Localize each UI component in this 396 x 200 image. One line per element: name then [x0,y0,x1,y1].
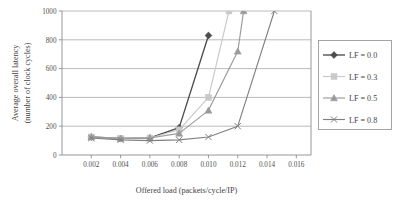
data-point-triangle [234,48,241,54]
x-axis-title: Offered load (packets/cycle/IP) [136,186,238,195]
gridlines [62,11,311,126]
data-series-layer [88,8,278,144]
x-tick-label: 0.006 [142,161,159,169]
series-line [91,11,229,138]
series-1 [88,8,231,141]
y-tick-label: 600 [46,65,57,73]
x-tick-label: 0.016 [288,161,305,169]
legend-label: LF = 0.3 [349,73,377,82]
x-tick-label: 0.010 [200,161,217,169]
x-axis-ticks [91,155,296,158]
legend-label: LF = 0.5 [349,94,377,103]
series-3 [88,8,277,144]
y-tick-label: 800 [46,37,57,45]
y-axis-title-line1: Average overall latency [11,44,20,122]
series-2 [88,8,247,142]
x-tick-label: 0.002 [83,161,100,169]
y-axis-ticks [59,11,62,155]
series-line [91,11,243,138]
x-tick-label: 0.014 [259,161,276,169]
data-point-square [331,74,337,80]
y-tick-label: 1000 [42,8,57,16]
legend-label: LF = 0.8 [349,116,377,125]
data-point-diamond [205,32,212,39]
chart-figure: 0.0020.0040.0060.0080.0100.0120.0140.016… [0,0,396,200]
y-tick-label: 200 [46,123,57,131]
x-tick-label: 0.012 [230,161,247,169]
y-axis-tick-labels: 02004006008001000 [42,8,57,160]
series-line [91,11,274,141]
data-point-triangle [205,107,212,113]
series-0 [88,32,212,142]
data-point-square [226,8,232,14]
y-axis-title-line2: (number of clock cycles) [23,42,32,123]
data-point-square [206,95,212,101]
y-tick-label: 0 [53,152,57,160]
series-line [91,35,208,138]
legend-label: LF = 0.0 [349,51,377,60]
x-tick-label: 0.004 [113,161,130,169]
axis-lines [62,11,311,155]
x-axis-tick-labels: 0.0020.0040.0060.0080.0100.0120.0140.016 [83,161,305,169]
x-tick-label: 0.008 [171,161,188,169]
legend: LF = 0.0LF = 0.3LF = 0.5LF = 0.8 [319,41,392,130]
line-chart: 0.0020.0040.0060.0080.0100.0120.0140.016… [0,0,396,200]
y-tick-label: 400 [46,94,57,102]
